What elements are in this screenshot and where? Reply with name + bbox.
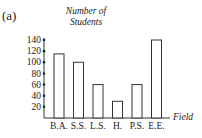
- bar-ps: [132, 85, 142, 118]
- x-tick-label: H.: [113, 121, 122, 131]
- y-tick-label: 60: [32, 80, 42, 90]
- x-tick-label: L.S.: [90, 121, 106, 131]
- x-tick-label: E.E.: [148, 121, 164, 131]
- y-tick-label: 140: [27, 35, 42, 45]
- y-tick-label: 40: [32, 91, 42, 101]
- y-tick-label: 100: [27, 57, 42, 67]
- y-tick-mark: [43, 61, 46, 64]
- y-tick-mark: [43, 39, 46, 42]
- y-tick-label: 120: [27, 46, 42, 56]
- x-tick-label: B.A.: [50, 121, 68, 131]
- y-tick-mark: [43, 94, 46, 97]
- y-tick-mark: [43, 50, 46, 53]
- bar-ba: [54, 54, 64, 118]
- y-tick-mark: [43, 83, 46, 86]
- bar-ls: [93, 85, 103, 118]
- bar-ss: [74, 62, 84, 118]
- x-tick-label: S.S.: [71, 121, 86, 131]
- y-tick-mark: [43, 106, 46, 109]
- bar-ee: [152, 40, 162, 118]
- y-tick-mark: [43, 72, 46, 75]
- bar-chart: 20406080100120140B.A.S.S.L.S.H.P.S.E.E.: [0, 0, 202, 138]
- x-tick-label: P.S.: [130, 121, 144, 131]
- y-tick-label: 20: [32, 102, 42, 112]
- bar-h: [113, 101, 123, 118]
- y-tick-label: 80: [32, 69, 42, 79]
